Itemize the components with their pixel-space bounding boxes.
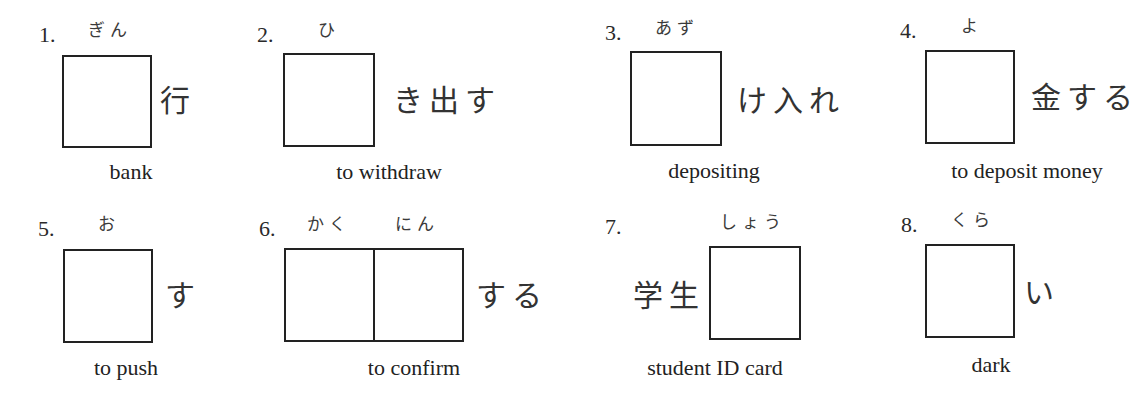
okurigana-after: け入れ: [737, 83, 845, 119]
furigana: ひ: [318, 20, 340, 40]
furigana: あず: [655, 18, 699, 38]
english-meaning: bank: [110, 160, 153, 184]
okurigana-after: 金する: [1031, 80, 1139, 116]
furigana: しょう: [720, 212, 786, 232]
item-number: 5.: [38, 218, 55, 240]
kanji-answer-box[interactable]: [283, 53, 375, 147]
kanji-answer-box[interactable]: [63, 249, 153, 343]
okurigana-after: い: [1024, 275, 1060, 311]
kanji-answer-box-2[interactable]: [374, 248, 464, 342]
english-meaning: dark: [971, 353, 1010, 377]
kanji-answer-box[interactable]: [62, 55, 152, 148]
english-meaning: to withdraw: [336, 160, 442, 184]
item-number: 1.: [39, 24, 56, 46]
furigana-first: かく: [307, 214, 351, 234]
english-meaning: to push: [94, 356, 158, 380]
english-meaning: depositing: [668, 159, 760, 183]
furigana: くら: [951, 210, 995, 230]
item-number: 6.: [259, 218, 276, 240]
english-meaning: to deposit money: [951, 159, 1103, 183]
item-number: 7.: [605, 216, 622, 238]
okurigana-after: き出す: [393, 83, 501, 119]
item-number: 2.: [257, 24, 274, 46]
item-number: 8.: [901, 214, 918, 236]
furigana: ぎん: [88, 20, 132, 40]
english-meaning: to confirm: [368, 356, 460, 380]
okurigana-after: する: [476, 278, 548, 314]
kanji-answer-box[interactable]: [709, 246, 801, 340]
english-meaning: student ID card: [647, 356, 783, 380]
furigana: よ: [961, 16, 983, 36]
kanji-answer-box-1[interactable]: [284, 248, 374, 342]
furigana-second: にん: [395, 214, 439, 234]
kanji-answer-box[interactable]: [925, 50, 1015, 144]
item-number: 4.: [900, 20, 917, 42]
furigana: お: [98, 214, 120, 234]
item-number: 3.: [605, 22, 622, 44]
kanji-answer-box[interactable]: [925, 244, 1015, 338]
kanji-before: 学生: [633, 278, 705, 314]
okurigana-after: 行: [160, 83, 196, 119]
okurigana-after: す: [165, 278, 201, 314]
kanji-answer-box[interactable]: [630, 51, 722, 146]
